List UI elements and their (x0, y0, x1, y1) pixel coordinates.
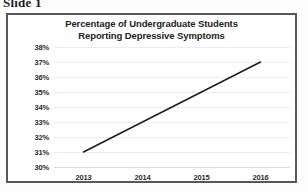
ytick-label-31: 31% (35, 148, 49, 157)
gridline-30 (54, 167, 290, 168)
ytick-label-38: 38% (35, 43, 49, 52)
ytick-label-33: 33% (35, 118, 49, 127)
xtick-label-2016: 2016 (253, 173, 269, 182)
chart-title: Percentage of Undergraduate Students Rep… (8, 18, 295, 42)
plot-area: 38% 37% 36% 35% 34% 33% 32% 31% 30% 2013… (54, 47, 290, 167)
xtick-label-2013: 2013 (76, 173, 92, 182)
ytick-label-34: 34% (35, 103, 49, 112)
series-line-depressive-symptoms (54, 47, 290, 167)
chart-title-line-1: Percentage of Undergraduate Students (65, 18, 238, 29)
slide-caption: Slide 1 (3, 0, 42, 11)
ytick-label-35: 35% (35, 88, 49, 97)
ytick-label-37: 37% (35, 58, 49, 67)
chart-frame: Percentage of Undergraduate Students Rep… (6, 13, 297, 183)
chart-title-line-2: Reporting Depressive Symptoms (8, 30, 295, 42)
ytick-label-36: 36% (35, 73, 49, 82)
ytick-label-32: 32% (35, 133, 49, 142)
xtick-label-2014: 2014 (135, 173, 151, 182)
xtick-label-2015: 2015 (194, 173, 210, 182)
ytick-label-30: 30% (35, 163, 49, 172)
